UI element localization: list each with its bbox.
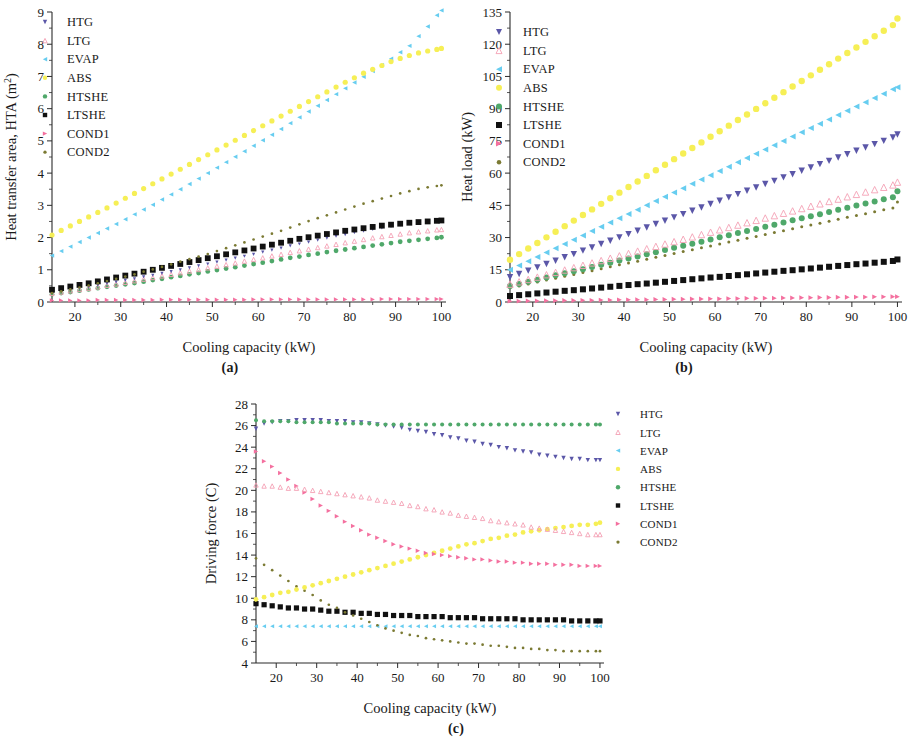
legend-item-ltshe[interactable]: LTSHE — [616, 500, 674, 512]
data-point — [790, 134, 796, 140]
legend-item-cond1[interactable]: COND1 — [616, 518, 678, 530]
data-point — [553, 423, 557, 427]
data-point — [391, 613, 396, 618]
data-point — [735, 191, 741, 197]
data-point — [407, 297, 411, 301]
data-point — [359, 528, 363, 532]
data-point — [680, 236, 686, 242]
legend-item-evap[interactable]: EVAP — [616, 445, 668, 457]
legend-item-ltshe[interactable]: LTSHE — [496, 118, 562, 132]
data-point — [808, 72, 814, 78]
data-point — [424, 506, 428, 510]
data-point — [407, 238, 412, 243]
data-point — [319, 503, 323, 507]
data-point — [689, 241, 695, 247]
legend-label: ABS — [523, 81, 548, 95]
data-point — [371, 200, 374, 203]
data-point — [507, 293, 513, 299]
data-point — [423, 614, 428, 619]
data-point — [375, 536, 379, 540]
data-point — [853, 261, 859, 267]
data-point — [351, 524, 355, 528]
data-point — [310, 488, 314, 492]
data-point — [270, 419, 274, 423]
data-point — [254, 418, 258, 422]
data-point — [488, 518, 492, 522]
legend-item-cond1[interactable]: COND1 — [496, 137, 566, 151]
data-point — [844, 108, 850, 114]
data-point — [680, 211, 686, 217]
data-point — [415, 555, 420, 560]
legend-item-ltg[interactable]: LTG — [496, 44, 547, 58]
legend-item-cond1[interactable]: COND1 — [43, 127, 110, 141]
data-point — [224, 160, 228, 164]
data-point — [754, 296, 759, 301]
legend-item-ltg[interactable]: LTG — [43, 34, 91, 48]
legend-item-htg[interactable]: HTG — [43, 15, 93, 29]
data-point — [826, 209, 832, 215]
data-point — [270, 464, 274, 468]
legend-item-htg[interactable]: HTG — [616, 408, 663, 420]
y-tick-label: 9 — [38, 5, 45, 20]
data-point — [543, 234, 549, 240]
x-tick-label: 60 — [432, 670, 445, 685]
data-point — [319, 624, 323, 628]
data-point — [169, 171, 174, 176]
legend-item-htshe[interactable]: HTSHE — [616, 481, 677, 493]
legend-item-htshe[interactable]: HTSHE — [496, 100, 564, 114]
data-point — [408, 423, 412, 427]
legend-item-cond2[interactable]: COND2 — [616, 536, 677, 548]
data-point — [872, 294, 877, 299]
data-point — [818, 222, 821, 225]
y-tick-label: 10 — [235, 591, 248, 606]
legend-label: LTSHE — [640, 500, 674, 512]
legend-item-evap[interactable]: EVAP — [43, 52, 99, 66]
legend-item-htshe[interactable]: HTSHE — [43, 90, 109, 104]
data-point — [327, 490, 331, 494]
data-point — [735, 222, 741, 228]
data-point — [251, 297, 255, 301]
data-point — [196, 176, 200, 180]
data-point — [161, 266, 164, 269]
data-point — [352, 75, 357, 80]
legend-item-abs[interactable]: ABS — [496, 81, 548, 95]
data-point — [753, 151, 759, 157]
data-point — [352, 297, 356, 301]
data-point — [456, 555, 460, 559]
data-point — [716, 198, 722, 204]
data-point — [435, 185, 438, 188]
legend-label: LTG — [67, 34, 91, 48]
data-point — [408, 634, 411, 637]
legend-item-evap[interactable]: EVAP — [496, 62, 555, 76]
data-point — [835, 196, 841, 202]
data-point — [890, 194, 896, 200]
data-point — [497, 559, 501, 563]
data-point — [289, 226, 292, 229]
data-point — [262, 419, 266, 423]
data-point — [472, 541, 477, 546]
data-point — [406, 220, 412, 226]
data-point — [512, 616, 517, 621]
data-point — [598, 520, 603, 525]
data-point — [589, 285, 595, 291]
data-point — [68, 244, 72, 248]
legend-item-htg[interactable]: HTG — [496, 25, 549, 39]
data-point — [398, 232, 402, 236]
legend-item-abs[interactable]: ABS — [616, 463, 662, 475]
data-point — [310, 583, 315, 588]
y-tick-label: 8 — [38, 37, 45, 52]
legend-item-abs[interactable]: ABS — [43, 71, 92, 85]
data-point — [689, 208, 695, 214]
data-point — [279, 127, 283, 131]
data-point — [287, 238, 293, 244]
data-point — [252, 238, 255, 241]
data-point — [375, 423, 379, 427]
legend-item-cond2[interactable]: COND2 — [497, 155, 566, 169]
data-point — [440, 510, 444, 514]
legend-item-ltg[interactable]: LTG — [616, 427, 661, 439]
data-point — [361, 71, 366, 76]
legend: HTGLTGEVAPABSHTSHELTSHECOND1COND2 — [616, 408, 678, 548]
data-point — [417, 188, 420, 191]
data-point — [43, 94, 47, 98]
legend-item-cond2[interactable]: COND2 — [43, 145, 109, 159]
